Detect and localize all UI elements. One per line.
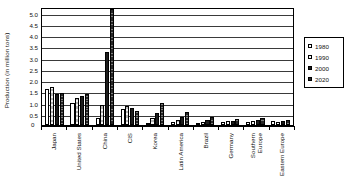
y-axis-tick-label: 4.0 [29,33,38,40]
x-axis-ticks [41,126,294,131]
bar [235,119,239,125]
bar [251,121,255,125]
bar [100,105,104,125]
x-axis-label-slot: United States [66,133,91,193]
bar [146,123,150,125]
bar-group [167,9,192,125]
bar [130,108,134,125]
y-axis-title: Production (in million tons) [0,0,14,140]
bar [231,121,235,125]
bar-groups [42,9,293,125]
x-axis-tick [294,126,295,130]
legend-label: 2000 [315,65,329,72]
y-axis-tick-label: 3.0 [29,55,38,62]
bar-group [218,9,243,125]
x-axis-tick [142,126,143,130]
legend-swatch-icon [308,77,313,82]
x-axis-tick [41,126,42,130]
bar [201,122,205,125]
y-axis-tick-labels: 5.04.54.03.53.02.52.01.51.00.5 [14,8,40,126]
bar [70,103,74,125]
bar [121,109,125,125]
bar-group [243,9,268,125]
bar-group [42,9,67,125]
legend-label: 1990 [315,54,329,61]
x-axis-tick [66,126,67,130]
chart-legend: 1980199020002020 [304,37,344,88]
legend-item: 1990 [308,52,342,63]
y-axis-tick-label: 3.5 [29,44,38,51]
bar [60,93,64,125]
x-axis-category-label: China [101,133,108,149]
x-axis-label-line: Southern [249,133,256,158]
bar [185,112,189,125]
x-axis-tick [269,126,270,130]
x-axis-label-slot: CIS [117,133,142,193]
plot-area [41,8,294,126]
x-axis-label-slot: Latin America [167,133,192,193]
bar [171,122,175,125]
bar [80,96,84,125]
legend-label: 2020 [315,76,329,83]
x-axis-label-line: China [101,133,108,149]
x-axis-label-line: Germany [227,133,234,158]
bar [176,120,180,125]
legend-item: 1980 [308,41,342,52]
x-axis-label-line: CIS [126,133,133,143]
bar [96,118,100,125]
x-axis-category-label: Japan [50,133,57,150]
x-axis-tick [117,126,118,130]
bar [221,122,225,125]
y-axis-tick-label: 1.0 [29,100,38,107]
bar [210,117,214,125]
legend-swatch-icon [308,66,313,71]
bar-group [117,9,142,125]
bar [180,117,184,125]
y-axis-tick-label: 2.5 [29,66,38,73]
bar [160,103,164,125]
x-axis-label-slot: Germany [218,133,243,193]
legend-item: 2000 [308,63,342,74]
bar [150,118,154,125]
bar-group [268,9,293,125]
bar [55,94,59,125]
x-axis-category-labels: JapanUnited StatesChinaCISKoreaLatin Ame… [41,133,294,193]
y-axis-title-text: Production (in million tons) [4,32,11,108]
x-axis-tick [168,126,169,130]
x-axis-tick [243,126,244,130]
x-axis-category-label: Germany [227,133,234,158]
x-axis-tick [92,126,93,130]
bar [281,121,285,125]
x-axis-category-label: Korea [151,133,158,150]
legend-item: 2020 [308,74,342,85]
bar [205,120,209,125]
bar [226,121,230,125]
legend-swatch-icon [308,55,313,60]
bar [196,123,200,125]
bar [286,120,290,125]
x-axis-category-label: United States [75,133,82,170]
x-axis-label-line: Japan [50,133,57,150]
x-axis-category-label: CIS [126,133,133,143]
x-axis-label-line: Korea [151,133,158,150]
y-axis-tick-label: 5.0 [29,10,38,17]
x-axis-category-label: SouthernEurope [249,133,263,158]
bar [125,106,129,125]
x-axis-label-line: Europe [256,133,263,158]
y-axis-zero-label: 0 [31,121,34,128]
bar [246,122,250,125]
y-axis-tick-label: 1.5 [29,89,38,96]
x-axis-tick [193,126,194,130]
x-axis-label-line: Eastern Europe [278,133,285,176]
y-axis-tick-label: 0.5 [29,111,38,118]
x-axis-label-line: Brazil [202,133,209,148]
bar-group [193,9,218,125]
x-axis-label-line: United States [75,133,82,170]
x-axis-category-label: Brazil [202,133,209,148]
x-axis-label-slot: China [92,133,117,193]
bar [105,52,109,125]
bar-chart: Production (in million tons) 5.04.54.03.… [0,0,347,195]
x-axis-label-slot: Eastern Europe [269,133,294,193]
x-axis-label-slot: SouthernEurope [243,133,268,193]
bar-group [142,9,167,125]
